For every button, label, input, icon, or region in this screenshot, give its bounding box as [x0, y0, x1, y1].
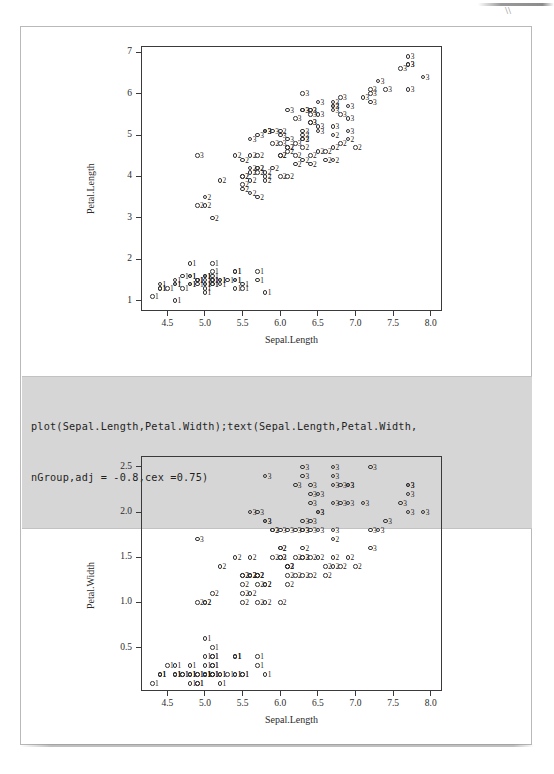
data-point-label: 2 [343, 563, 347, 570]
data-point-label: 1 [208, 635, 212, 642]
data-point [240, 591, 245, 596]
x-axis-tick [242, 691, 243, 696]
data-point [263, 290, 268, 295]
x-axis-tick [242, 311, 243, 316]
data-point-label: 3 [381, 78, 385, 85]
data-point-label: 3 [305, 554, 309, 561]
x-axis-tick-label: 6.0 [260, 318, 300, 328]
data-point [240, 174, 245, 179]
x-axis-tick-label: 7.5 [373, 318, 413, 328]
data-point-label: 2 [335, 554, 339, 561]
data-point [248, 573, 253, 578]
data-point [278, 153, 283, 158]
data-point [293, 483, 298, 488]
data-point-label: 3 [253, 509, 257, 516]
data-point [240, 286, 245, 291]
data-point-label: 2 [313, 161, 317, 168]
data-point [278, 141, 283, 146]
data-point [285, 582, 290, 587]
y-axis-title: Petal.Length [85, 163, 96, 214]
data-point-label: 3 [283, 527, 287, 534]
data-point-label: 3 [411, 53, 415, 60]
data-point-label: 2 [290, 581, 294, 588]
data-point [278, 600, 283, 605]
data-point [293, 555, 298, 560]
data-point-label: 1 [215, 662, 219, 669]
data-point-label: 3 [290, 563, 294, 570]
data-point-label: 2 [305, 545, 309, 552]
data-point-label: 2 [328, 563, 332, 570]
data-point-label: 2 [245, 590, 249, 597]
data-point-label: 2 [260, 581, 264, 588]
data-point-label: 1 [170, 285, 174, 292]
data-point-label: 2 [208, 194, 212, 201]
data-point-label: 1 [230, 277, 234, 284]
data-point [398, 501, 403, 506]
x-axis-tick [204, 691, 205, 696]
x-axis-tick [167, 691, 168, 696]
data-point [203, 654, 208, 659]
data-point [240, 582, 245, 587]
data-point [225, 278, 230, 283]
data-point [338, 95, 343, 100]
data-point-label: 1 [200, 680, 204, 687]
data-point-label: 1 [177, 281, 181, 288]
data-point-label: 3 [313, 111, 317, 118]
data-point-label: 3 [388, 86, 392, 93]
data-point-label: 3 [320, 509, 324, 516]
data-point-label: 2 [335, 144, 339, 151]
data-point-label: 3 [351, 128, 355, 135]
data-point [150, 294, 155, 299]
data-point-label: 3 [335, 473, 339, 480]
x-axis-title: Sepal.Length [232, 714, 352, 725]
x-axis-tick [317, 691, 318, 696]
data-point-label: 2 [335, 132, 339, 139]
data-point-label: 3 [373, 545, 377, 552]
data-point-label: 3 [268, 473, 272, 480]
data-point-label: 2 [328, 157, 332, 164]
data-point [210, 261, 215, 266]
data-point-label: 1 [260, 662, 264, 669]
data-point [278, 174, 283, 179]
data-point-label: 3 [298, 527, 302, 534]
data-point-label: 1 [193, 662, 197, 669]
data-point [158, 672, 163, 677]
data-point [203, 203, 208, 208]
data-point-label: 1 [193, 260, 197, 267]
data-point [398, 66, 403, 71]
data-point [331, 124, 336, 129]
data-point [285, 573, 290, 578]
data-point-label: 3 [290, 107, 294, 114]
data-point [316, 555, 321, 560]
data-point [233, 555, 238, 560]
data-point-label: 3 [290, 136, 294, 143]
data-point-label: 3 [335, 103, 339, 110]
y-axis-tick-label: 1.0 [101, 596, 132, 606]
data-point [240, 672, 245, 677]
y-axis-tick [136, 466, 141, 467]
data-point-label: 1 [215, 644, 219, 651]
y-axis-title: Petal.Width [85, 561, 96, 608]
data-point [158, 286, 163, 291]
data-point [316, 124, 321, 129]
data-point-label: 2 [351, 554, 355, 561]
data-point [353, 145, 358, 150]
data-point [203, 290, 208, 295]
data-point-label: 2 [283, 599, 287, 606]
data-point [368, 465, 373, 470]
data-point [323, 149, 328, 154]
data-point [218, 564, 223, 569]
data-point [150, 681, 155, 686]
data-point [210, 645, 215, 650]
data-point [225, 672, 230, 677]
data-point-label: 3 [305, 464, 309, 471]
data-point [338, 564, 343, 569]
data-point [308, 483, 313, 488]
data-point-label: 1 [208, 671, 212, 678]
data-point [316, 149, 321, 154]
y-axis-tick [136, 176, 141, 177]
data-point [308, 112, 313, 117]
data-point [218, 178, 223, 183]
data-point [346, 555, 351, 560]
scan-speck-artifact: \\ [505, 5, 513, 16]
